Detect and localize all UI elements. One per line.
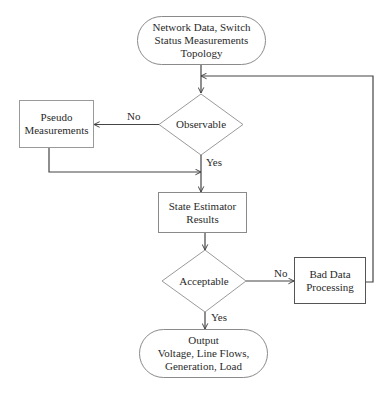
acceptable-label: Acceptable — [179, 275, 228, 288]
output-line-3: Generation, Load — [165, 360, 242, 373]
pseudo-line-2: Measurements — [24, 124, 88, 137]
observable-label: Observable — [176, 118, 226, 131]
output-line-1: Output — [188, 334, 219, 347]
acceptable-decision: Acceptable — [162, 250, 246, 312]
input-line-1: Network Data, Switch — [152, 21, 250, 34]
pseudo-measurements-box: Pseudo Measurements — [19, 100, 94, 148]
observable-no-label: No — [127, 110, 140, 123]
output-line-2: Voltage, Line Flows, — [158, 347, 249, 360]
acceptable-no-label: No — [274, 267, 287, 280]
state-estimator-line-2: Results — [186, 213, 218, 226]
input-line-3: Topology — [180, 47, 222, 60]
output-terminator: Output Voltage, Line Flows, Generation, … — [139, 329, 268, 378]
observable-yes-label: Yes — [206, 156, 222, 169]
observable-decision: Observable — [159, 94, 243, 155]
pseudo-line-1: Pseudo — [41, 111, 73, 124]
state-estimator-line-1: State Estimator — [169, 200, 237, 213]
acceptable-yes-label: Yes — [211, 311, 227, 324]
input-line-2: Status Measurements — [155, 34, 249, 47]
bad-data-box: Bad Data Processing — [294, 257, 366, 304]
input-terminator: Network Data, Switch Status Measurements… — [137, 16, 266, 65]
state-estimator-box: State Estimator Results — [158, 192, 247, 233]
bad-data-line-2: Processing — [306, 281, 354, 294]
bad-data-line-1: Bad Data — [309, 268, 350, 281]
